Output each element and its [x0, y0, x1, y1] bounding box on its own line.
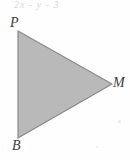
triangle-polygon-PBM — [18, 31, 112, 138]
geometry-figure: 2x - y - 3 P M B — [0, 0, 131, 162]
scan-speck — [96, 146, 98, 148]
vertex-label-b: B — [12, 139, 21, 153]
scan-speck — [118, 120, 121, 123]
vertex-label-p: P — [10, 16, 19, 30]
vertex-label-m: M — [113, 76, 125, 90]
